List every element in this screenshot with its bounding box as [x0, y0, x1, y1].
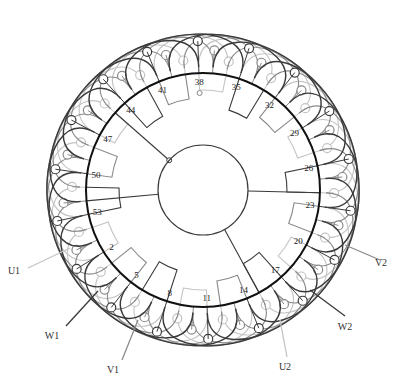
terminal-lead-line	[66, 291, 98, 326]
inner-connections	[86, 73, 320, 307]
coil-loop	[295, 164, 357, 280]
coil-lead	[57, 214, 88, 221]
winding-diagram: 258111417202326293235384144475053 U1W1V1…	[0, 0, 400, 391]
stator-ring	[86, 73, 320, 307]
slot-number-label: 2	[109, 242, 114, 252]
slot-number-label: 8	[167, 288, 172, 298]
slot-bracket	[285, 166, 320, 193]
coil-lead	[247, 298, 259, 328]
star-connection-spoke	[225, 229, 260, 292]
slot-number-label: 41	[158, 85, 167, 95]
coil-lead	[317, 159, 348, 166]
star-connection-spoke	[248, 191, 320, 193]
terminal-label-v2: V2	[375, 257, 387, 268]
slot-number-label: 38	[195, 77, 205, 87]
coil-lead	[111, 282, 131, 307]
terminal-leads: U1W1V1U2W2V2	[8, 245, 387, 375]
terminal-label-u1: U1	[8, 265, 20, 276]
slot-number-label: 5	[134, 270, 139, 280]
terminal-label-v1: V1	[107, 364, 119, 375]
star-connection-spoke	[115, 113, 169, 161]
slot-number-label: 47	[103, 134, 113, 144]
slot-number-label: 23	[305, 200, 315, 210]
terminal-label-u2: U2	[279, 361, 291, 372]
terminal-lead-line	[310, 290, 345, 316]
terminal-lead-line	[122, 320, 138, 360]
coil-lead	[147, 52, 159, 82]
coil-loop	[113, 35, 228, 98]
slot-number-label: 50	[92, 170, 102, 180]
slot-number-label: 11	[202, 293, 211, 303]
slot-number-label: 29	[290, 128, 300, 138]
coil-loop	[178, 281, 293, 344]
slot-number-label: 20	[294, 236, 304, 246]
slot-number-label: 35	[232, 82, 242, 92]
terminal-label-w2: W2	[338, 321, 352, 332]
slot-number-label: 14	[239, 285, 249, 295]
inner-bus-ring	[158, 145, 248, 235]
slot-number-label: 32	[265, 100, 274, 110]
coil-lead	[71, 120, 99, 135]
slot-number-label: 53	[93, 207, 103, 217]
coil-lead	[306, 245, 334, 260]
slot-number-label: 26	[304, 163, 314, 173]
slot-number-label: 44	[126, 105, 136, 115]
coil-loop	[108, 277, 222, 344]
slot-labels: 258111417202326293235384144475053	[92, 77, 315, 303]
terminal-label-w1: W1	[45, 330, 59, 341]
terminal-lead-line	[280, 320, 287, 357]
slot-number-label: 17	[271, 265, 281, 275]
junction-node	[197, 91, 202, 96]
coil-lead	[275, 73, 295, 98]
star-connection-spoke	[87, 194, 159, 201]
